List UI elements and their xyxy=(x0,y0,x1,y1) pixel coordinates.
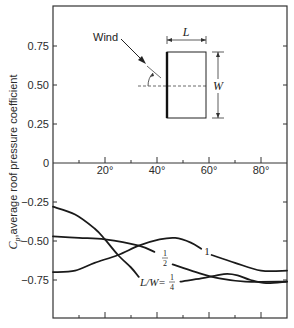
inset-diagram: Wind L W xyxy=(93,25,225,118)
series-label-half: 12 xyxy=(162,249,168,268)
length-arrow-left-icon xyxy=(167,38,172,42)
y-tick-label: −0.75 xyxy=(21,274,49,286)
width-label: W xyxy=(213,79,224,93)
series-label-quarter-prefix: L/W= xyxy=(139,276,166,288)
length-arrow-right-icon xyxy=(201,38,206,42)
wind-label: Wind xyxy=(93,31,118,43)
y-tick-label: 0 xyxy=(43,157,49,169)
x-tick-label: 80° xyxy=(253,164,270,176)
y-tick-label: −0.50 xyxy=(21,235,49,247)
length-label: L xyxy=(182,25,190,39)
y-axis-label: Cp,average roof pressure coefficient xyxy=(6,74,22,249)
svg-text:2: 2 xyxy=(163,259,167,268)
y-tick-label: 0.25 xyxy=(28,118,49,130)
width-arrow-top-icon xyxy=(216,52,220,57)
wind-direction-line xyxy=(147,66,161,78)
series-label-quarter-fraction: 14 xyxy=(169,273,175,292)
y-tick-label: −0.25 xyxy=(21,196,49,208)
svg-text:1: 1 xyxy=(170,273,174,282)
series-line-quarter xyxy=(53,207,139,277)
series-line-one xyxy=(212,255,287,271)
x-tick-label: 40° xyxy=(149,164,166,176)
svg-text:1: 1 xyxy=(163,249,167,258)
y-tick-label: 0.75 xyxy=(28,40,49,52)
x-tick-label: 60° xyxy=(201,164,218,176)
series-label-one: 1 xyxy=(204,245,210,257)
building-plan xyxy=(167,52,206,118)
roof-pressure-chart: 20°40°60°80° 0.750.500.250−0.25−0.50−0.7… xyxy=(0,0,294,328)
y-tick-label: 0.50 xyxy=(28,79,49,91)
plot-frame xyxy=(53,6,287,318)
series-line-half xyxy=(53,236,154,252)
width-arrow-bottom-icon xyxy=(216,113,220,118)
svg-text:4: 4 xyxy=(170,283,174,292)
x-tick-label: 20° xyxy=(97,164,114,176)
